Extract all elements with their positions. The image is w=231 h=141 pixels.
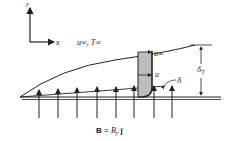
velocity-profile-fill <box>138 51 152 97</box>
coordinate-axes <box>30 8 54 42</box>
thermal-layer-edge <box>20 45 195 97</box>
x-axis-label: x <box>55 38 60 47</box>
thermal-layer-label: δT <box>197 64 205 75</box>
freestream-label: u∞, T∞ <box>77 38 101 47</box>
delta-leader <box>164 80 176 86</box>
boundary-layer-diagram: y x u∞, T∞ u∞ u δ δT B = By ĵ <box>0 0 231 141</box>
magnetic-field-label: B = By ĵ <box>96 126 123 136</box>
outer-velocity-label: u∞ <box>154 49 164 58</box>
boundary-layer-label: δ <box>177 75 182 85</box>
y-axis-label: y <box>25 0 30 8</box>
inner-velocity-label: u <box>155 70 159 79</box>
